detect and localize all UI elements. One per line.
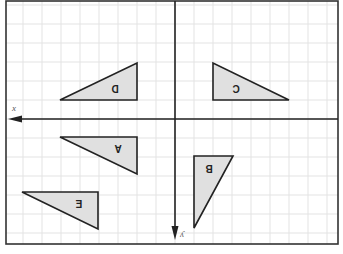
x-axis-arrow-icon [8,116,22,123]
triangle-label: A [114,143,121,154]
triangle-label: E [75,198,82,209]
diagram-canvas: DCABE xy [0,0,343,254]
x-axis-label: x [11,103,16,113]
triangle-label: B [205,163,212,174]
triangle-shape [22,192,98,229]
triangle-label: D [111,83,118,94]
coordinate-diagram: DCABE xy [0,0,343,254]
triangle-label: C [232,83,239,94]
y-axis-label: y [180,231,185,241]
triangle-e: E [22,192,98,229]
